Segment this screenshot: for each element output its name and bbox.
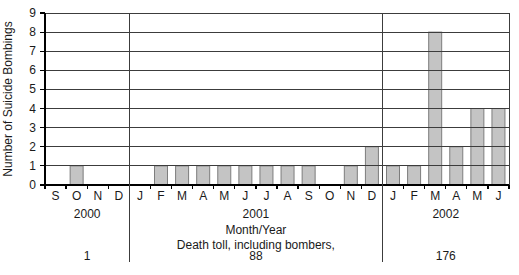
bar-2001-A-3 [197, 166, 210, 185]
death-toll-caption: Death toll, including bombers, [177, 238, 335, 252]
y-tick-label-0: 0 [29, 178, 36, 192]
bar-2001-J-5 [239, 166, 252, 185]
month-label-2002-5: J [495, 189, 501, 203]
x-axis-title: Month/Year [225, 223, 286, 237]
month-label-2002-2: M [430, 189, 440, 203]
month-label-2001-6: J [263, 189, 269, 203]
y-tick-label-9: 9 [29, 6, 36, 20]
bar-2001-F-1 [155, 166, 168, 185]
month-label-2002-4: M [472, 189, 482, 203]
month-label-2001-0: J [137, 189, 143, 203]
month-label-2001-8: S [305, 189, 313, 203]
month-label-2001-2: M [177, 189, 187, 203]
bar-2001-S-8 [302, 166, 315, 185]
y-tick-label-6: 6 [29, 63, 36, 77]
month-label-2002-3: A [452, 189, 460, 203]
suicide-bombings-bar-chart: 0123456789SOND20001JFMAMJJASOND200188JFM… [0, 0, 519, 275]
bar-2001-M-4 [218, 166, 231, 185]
month-label-2000-0: S [52, 189, 60, 203]
year-label-2001: 2001 [243, 207, 270, 221]
bar-2002-F-1 [408, 166, 421, 185]
month-label-2001-5: J [242, 189, 248, 203]
death-toll-2002: 176 [436, 249, 456, 263]
month-label-2000-2: N [93, 189, 102, 203]
y-tick-label-5: 5 [29, 82, 36, 96]
suicide-bombings-figure: 0123456789SOND20001JFMAMJJASOND200188JFM… [0, 0, 519, 275]
bar-2001-A-7 [281, 166, 294, 185]
month-label-2001-10: N [346, 189, 355, 203]
month-label-2002-1: F [410, 189, 417, 203]
y-axis-title: Number of Suicide Bombings [1, 21, 15, 176]
month-label-2000-1: O [72, 189, 81, 203]
month-label-2001-9: O [325, 189, 334, 203]
month-label-2001-11: D [368, 189, 377, 203]
year-label-2002: 2002 [432, 207, 459, 221]
bar-2001-M-2 [176, 166, 189, 185]
bar-2001-J-6 [260, 166, 273, 185]
y-tick-label-8: 8 [29, 25, 36, 39]
bar-2000-O-1 [70, 166, 83, 185]
month-label-2001-3: A [199, 189, 207, 203]
month-label-2001-7: A [284, 189, 292, 203]
y-tick-label-2: 2 [29, 140, 36, 154]
bar-2001-N-10 [344, 166, 357, 185]
y-tick-label-1: 1 [29, 159, 36, 173]
y-tick-label-4: 4 [29, 102, 36, 116]
y-tick-label-7: 7 [29, 44, 36, 58]
month-label-2000-3: D [114, 189, 123, 203]
month-label-2001-1: F [157, 189, 164, 203]
month-label-2001-4: M [219, 189, 229, 203]
month-label-2002-0: J [390, 189, 396, 203]
death-toll-2000: 1 [84, 249, 91, 263]
year-label-2000: 2000 [74, 207, 101, 221]
bar-2002-J-0 [387, 166, 400, 185]
y-tick-label-3: 3 [29, 121, 36, 135]
